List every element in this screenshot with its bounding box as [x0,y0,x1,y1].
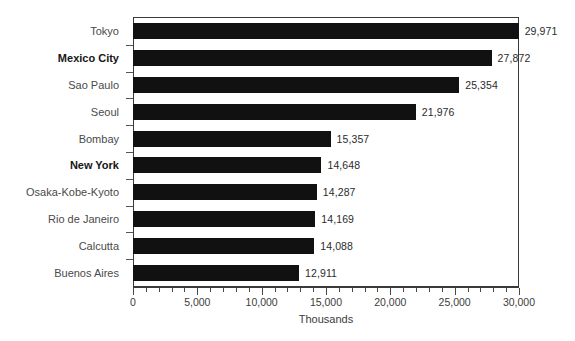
bar: 14,648 [133,157,321,173]
x-minor-tick [313,288,314,292]
x-minor-tick [468,288,469,292]
x-tick-label: 30,000 [503,296,535,308]
bar-row: 14,287 [133,179,519,206]
category-tick [126,152,133,153]
bar-row: 14,648 [133,152,519,179]
bar-value-label: 29,971 [525,25,558,37]
x-minor-tick [352,288,353,292]
category-tick [126,98,133,99]
x-tick-label: 0 [130,296,136,308]
bar: 14,287 [133,184,317,200]
bar-value-label: 14,169 [321,213,354,225]
x-tick-label: 10,000 [246,296,278,308]
x-major-tick [519,288,520,295]
category-axis-labels: TokyoMexico CitySao PauloSeoulBombayNew … [0,18,126,286]
category-label: Bombay [0,125,126,152]
category-tick [126,72,133,73]
x-tick-label: 5,000 [184,296,210,308]
x-minor-tick [210,288,211,292]
category-label: New York [0,152,126,179]
bar-value-label: 27,872 [498,52,531,64]
bar-series: 29,97127,87225,35421,97615,35714,64814,2… [133,18,519,286]
category-label: Buenos Aires [0,259,126,286]
bar-row: 14,088 [133,232,519,259]
x-tick-label: 15,000 [310,296,342,308]
bar-row: 12,911 [133,259,519,286]
category-tick [126,125,133,126]
bar-row: 21,976 [133,98,519,125]
x-minor-tick [146,288,147,292]
x-major-tick [197,288,198,295]
x-axis-tick-labels: 05,00010,00015,00020,00025,00030,000 [133,296,519,312]
x-minor-tick [184,288,185,292]
x-minor-tick [429,288,430,292]
x-minor-tick [403,288,404,292]
x-minor-tick [249,288,250,292]
bar: 21,976 [133,104,416,120]
category-axis-ticks [126,18,133,286]
bar-value-label: 12,911 [305,267,337,279]
bar-value-label: 21,976 [422,106,455,118]
bar-value-label: 25,354 [465,79,498,91]
category-tick [126,206,133,207]
x-minor-tick [480,288,481,292]
category-label: Seoul [0,98,126,125]
x-tick-label: 20,000 [374,296,406,308]
category-tick [126,259,133,260]
bar: 25,354 [133,77,459,93]
bar-chart: TokyoMexico CitySao PauloSeoulBombayNew … [0,0,575,341]
bar-row: 27,872 [133,45,519,72]
x-minor-tick [300,288,301,292]
category-label: Sao Paulo [0,72,126,99]
x-minor-tick [442,288,443,292]
x-minor-tick [159,288,160,292]
bar-value-label: 14,287 [323,186,356,198]
x-minor-tick [493,288,494,292]
x-minor-tick [339,288,340,292]
x-minor-tick [416,288,417,292]
bar: 14,169 [133,211,315,227]
x-axis-title: Thousands [133,313,519,325]
x-axis-ticks [133,288,519,296]
bar: 15,357 [133,131,331,147]
category-label: Calcutta [0,232,126,259]
category-tick [126,232,133,233]
category-label: Rio de Janeiro [0,206,126,233]
x-minor-tick [377,288,378,292]
category-label: Osaka-Kobe-Kyoto [0,179,126,206]
x-major-tick [390,288,391,295]
bar-value-label: 14,648 [327,159,360,171]
bar: 14,088 [133,238,314,254]
x-minor-tick [365,288,366,292]
x-minor-tick [223,288,224,292]
category-label: Mexico City [0,45,126,72]
bar-row: 29,971 [133,18,519,45]
x-minor-tick [287,288,288,292]
x-minor-tick [275,288,276,292]
bar: 12,911 [133,265,299,281]
x-tick-label: 25,000 [439,296,471,308]
category-label: Tokyo [0,18,126,45]
bar: 27,872 [133,50,492,66]
category-tick [126,179,133,180]
bar-value-label: 15,357 [337,133,370,145]
bar-row: 14,169 [133,206,519,233]
x-major-tick [133,288,134,295]
bar-row: 15,357 [133,125,519,152]
x-major-tick [326,288,327,295]
x-minor-tick [172,288,173,292]
x-minor-tick [236,288,237,292]
x-minor-tick [506,288,507,292]
category-tick [126,45,133,46]
bar-row: 25,354 [133,72,519,99]
bar-value-label: 14,088 [320,240,353,252]
x-major-tick [262,288,263,295]
bar: 29,971 [133,23,519,39]
x-major-tick [455,288,456,295]
